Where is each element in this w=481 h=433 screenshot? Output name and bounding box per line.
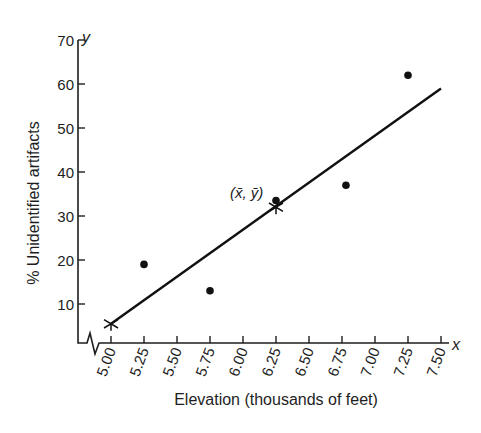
regression-line (111, 88, 441, 323)
data-series (104, 71, 441, 330)
y-tick-label: 10 (57, 296, 74, 313)
x-tick-label: 5.75 (192, 345, 218, 378)
x-tick-label: 5.25 (126, 345, 152, 378)
y-axis-title: % Unidentified artifacts (25, 121, 42, 285)
x-tick-label: 7.00 (357, 345, 383, 378)
y-tick-labels: 10203040506070 (57, 32, 74, 313)
x-tick-label: 7.50 (423, 345, 449, 378)
y-tick-label: 40 (57, 164, 74, 181)
x-tick-label: 6.50 (291, 345, 317, 378)
x-axis-title: Elevation (thousands of feet) (174, 391, 378, 408)
x-tick-label: 5.50 (159, 345, 185, 378)
y-tick-label: 70 (57, 32, 74, 49)
data-point (342, 181, 350, 189)
data-point (404, 71, 412, 79)
mean-point-annotation: (x̄, ȳ) (230, 184, 263, 201)
y-tick-label: 60 (57, 76, 74, 93)
y-tick-label: 30 (57, 208, 74, 225)
x-axis-letter: x (451, 336, 461, 353)
y-tick-label: 50 (57, 120, 74, 137)
data-point (206, 287, 214, 295)
x-tick-label: 6.25 (258, 345, 284, 378)
x-tick-label: 6.75 (324, 345, 350, 378)
x-tick-label: 6.00 (225, 345, 251, 378)
y-axis-letter: y (81, 29, 91, 46)
x-tick-labels: 5.005.255.505.756.006.256.506.757.007.25… (93, 345, 449, 378)
y-tick-label: 20 (57, 252, 74, 269)
x-tick-label: 7.25 (390, 345, 416, 378)
scatter-chart: 10203040506070 5.005.255.505.756.006.256… (0, 0, 481, 433)
cross-marker (104, 320, 118, 331)
data-point (140, 261, 148, 269)
